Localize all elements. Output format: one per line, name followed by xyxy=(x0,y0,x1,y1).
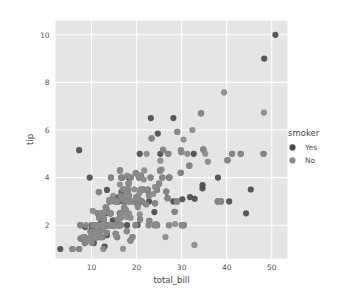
data-point xyxy=(179,222,185,228)
data-point xyxy=(131,186,137,192)
data-point xyxy=(218,198,224,204)
data-point xyxy=(115,222,121,228)
data-point xyxy=(192,196,198,202)
legend-title: smoker xyxy=(288,128,320,138)
data-point xyxy=(136,173,142,179)
data-point xyxy=(122,186,128,192)
legend-marker-yes[interactable] xyxy=(289,144,295,150)
data-point xyxy=(120,246,126,252)
data-point xyxy=(77,222,83,228)
data-point xyxy=(152,222,158,228)
data-point xyxy=(126,192,132,198)
data-point xyxy=(118,174,124,180)
data-point xyxy=(200,146,206,152)
data-point xyxy=(100,210,106,216)
x-tick-label: 10 xyxy=(87,263,97,272)
data-point xyxy=(132,222,138,228)
data-point xyxy=(147,174,153,180)
data-point xyxy=(108,174,114,180)
y-tick-label: 8 xyxy=(45,78,50,87)
data-point xyxy=(174,198,180,204)
data-point xyxy=(261,55,267,61)
data-point xyxy=(174,129,180,135)
data-point xyxy=(128,198,134,204)
y-tick-label: 10 xyxy=(40,31,50,40)
data-point xyxy=(108,210,114,216)
data-point xyxy=(229,151,235,157)
data-point xyxy=(272,32,278,38)
data-point xyxy=(76,147,82,153)
data-point xyxy=(81,234,87,240)
x-tick-label: 20 xyxy=(132,263,142,272)
data-point xyxy=(261,110,267,116)
data-point xyxy=(166,174,172,180)
data-point xyxy=(122,198,128,204)
data-point xyxy=(166,222,172,228)
data-point xyxy=(238,151,244,157)
data-point xyxy=(90,222,96,228)
data-point xyxy=(148,115,154,121)
data-point xyxy=(104,187,110,193)
legend-label-yes[interactable]: Yes xyxy=(304,143,317,152)
legend-marker-no[interactable] xyxy=(289,157,295,163)
data-point xyxy=(124,222,130,228)
data-point xyxy=(157,168,163,174)
data-point xyxy=(162,234,168,240)
data-point xyxy=(104,230,110,236)
y-tick-label: 6 xyxy=(45,126,50,135)
data-point xyxy=(76,246,82,252)
data-point xyxy=(224,157,230,163)
data-point xyxy=(92,235,98,241)
data-point xyxy=(121,204,127,210)
plot-canvas: 1020304050246810total_billtipsmokerYesNo xyxy=(0,0,342,301)
x-tick-label: 30 xyxy=(177,263,187,272)
data-point xyxy=(179,196,185,202)
data-point xyxy=(138,186,144,192)
data-point xyxy=(113,198,119,204)
data-point xyxy=(154,187,160,193)
data-point xyxy=(163,189,169,195)
data-point xyxy=(126,180,132,186)
data-point xyxy=(128,215,134,221)
legend-label-no[interactable]: No xyxy=(305,156,316,165)
data-point xyxy=(152,200,158,206)
data-point xyxy=(156,180,162,186)
data-point xyxy=(157,158,163,164)
data-point xyxy=(146,222,152,228)
data-point xyxy=(135,202,141,208)
data-point xyxy=(180,136,186,142)
data-point xyxy=(226,198,232,204)
data-point xyxy=(144,151,150,157)
data-point xyxy=(141,167,147,173)
x-axis-title: total_bill xyxy=(153,275,189,285)
y-tick-label: 4 xyxy=(45,173,50,182)
data-point xyxy=(145,186,151,192)
data-point xyxy=(100,246,106,252)
data-point xyxy=(107,222,113,228)
data-point xyxy=(186,163,192,169)
data-point xyxy=(83,222,89,228)
data-point xyxy=(178,170,184,176)
data-point xyxy=(159,174,165,180)
data-point xyxy=(160,147,166,153)
data-point xyxy=(155,130,161,136)
data-point xyxy=(96,189,102,195)
data-point xyxy=(118,193,124,199)
data-point xyxy=(198,110,204,116)
data-point xyxy=(199,182,205,188)
data-point xyxy=(178,149,184,155)
y-tick-label: 2 xyxy=(45,221,50,230)
data-point xyxy=(96,215,102,221)
data-point xyxy=(87,174,93,180)
data-point xyxy=(165,151,171,157)
data-point xyxy=(129,234,135,240)
x-tick-label: 40 xyxy=(222,263,232,272)
data-point xyxy=(172,209,178,215)
data-point xyxy=(106,198,112,204)
data-point xyxy=(205,159,211,165)
data-point xyxy=(191,151,197,157)
data-point xyxy=(243,210,249,216)
data-point xyxy=(103,204,109,210)
data-point xyxy=(137,216,143,222)
scatter-plot-figure: 1020304050246810total_billtipsmokerYesNo xyxy=(0,0,342,301)
